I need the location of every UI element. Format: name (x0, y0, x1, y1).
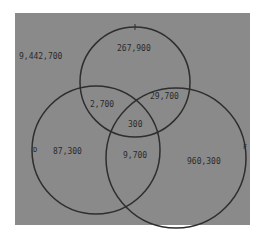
region-all-three: 300 (128, 120, 142, 129)
venn-diagram (0, 0, 263, 235)
region-left-right: 9,700 (123, 151, 147, 160)
circle-left-label: D (33, 146, 37, 154)
circle-right-label: F (243, 143, 247, 151)
outside-value: 9,442,700 (19, 52, 62, 61)
region-left-only: 87,300 (53, 147, 82, 156)
region-top-right: 29,700 (150, 92, 179, 101)
region-right-only: 960,300 (187, 157, 221, 166)
region-top-only: 267,900 (117, 44, 151, 53)
region-top-left: 2,700 (90, 100, 114, 109)
